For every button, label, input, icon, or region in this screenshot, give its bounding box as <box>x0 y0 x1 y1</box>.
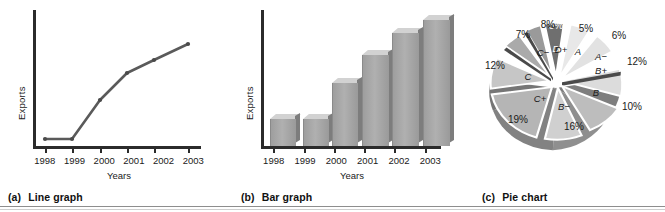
bar-graph-tick-label: 1999 <box>289 155 320 166</box>
bar-graph-tick <box>425 148 427 153</box>
line-graph-tick-label: 1999 <box>60 155 90 166</box>
pie-label-percent-b: 10% <box>622 102 642 112</box>
bar-front-face <box>270 119 296 146</box>
panel-c-caption-text: Pie chart <box>502 191 547 203</box>
panel-a-caption: (a) Line graph <box>8 191 83 203</box>
pie-label-grade-b-plus: B+ <box>595 66 607 76</box>
pie-label-grade-b-minus: B− <box>558 102 570 112</box>
line-graph-tick-label: 1998 <box>30 155 60 166</box>
bar-graph-bar <box>392 33 418 146</box>
bar-graph-tick-label: 2000 <box>321 155 352 166</box>
pie-label-grade-c-plus: C+ <box>534 94 546 104</box>
panel-c-caption: (c) Pie chart <box>482 191 547 203</box>
bar-graph-tick-label: 2001 <box>352 155 383 166</box>
panel-c-caption-id: (c) <box>482 191 495 203</box>
line-graph-tick <box>45 148 47 153</box>
pie-label-grade-a: A <box>575 47 581 57</box>
bar-graph-tick-label: 1998 <box>258 155 289 166</box>
bar-front-face <box>332 83 358 146</box>
bar-graph-x-axis <box>261 146 441 149</box>
pie-label-grade-b: B <box>593 88 599 98</box>
pie-label-percent-c-minus: 7% <box>516 30 530 40</box>
pie-label-percent-b-minus: 16% <box>564 122 584 132</box>
bar-graph-tick <box>394 148 396 153</box>
line-graph-tick-label: 2001 <box>119 155 149 166</box>
pie-label-percent-b-plus: 12% <box>627 57 647 67</box>
line-graph-tick <box>188 148 190 153</box>
bar-graph-tick-label: 2002 <box>383 155 414 166</box>
panel-b-caption-text: Bar graph <box>262 191 313 203</box>
panel-a-caption-text: Line graph <box>28 191 83 203</box>
figure-bottom-rule <box>0 206 665 208</box>
bar-graph-tick <box>304 148 306 153</box>
line-graph-x-tick-labels: 1998 1999 2000 2001 2002 2003 <box>30 155 208 166</box>
panel-b-caption-id: (b) <box>241 191 255 203</box>
bar-graph-tick <box>273 148 275 153</box>
pie-label-percent-a-minus: 6% <box>612 31 626 41</box>
bar-graph-tick-label: 2003 <box>415 155 446 166</box>
line-graph-tick <box>72 148 74 153</box>
line-graph-x-axis-label: Years <box>30 170 208 181</box>
bar-graph-plot-area <box>261 10 441 146</box>
pie-label-percent-a: 5% <box>579 24 593 34</box>
panel-a-caption-id: (a) <box>8 191 21 203</box>
line-graph-tick-label: 2002 <box>149 155 179 166</box>
pie-chart-plot-area: 5% D 5% A 6% A− 12% B+ 10% B 16% B− 19% … <box>446 4 665 159</box>
line-graph-tick-label: 2000 <box>89 155 119 166</box>
bar-graph-y-axis-label: Exports <box>244 86 255 120</box>
pie-label-grade-d-plus: D+ <box>555 45 567 55</box>
panel-b-caption: (b) Bar graph <box>241 191 312 203</box>
bar-graph-tick <box>334 148 336 153</box>
bar-graph-x-axis-label: Years <box>258 170 446 181</box>
pie-label-percent-d-plus: 8% <box>541 20 555 30</box>
bar-graph-bar <box>270 119 295 146</box>
panel-bar-graph: Exports <box>218 0 446 212</box>
bar-front-face <box>303 119 329 146</box>
pie-label-grade-c: C <box>525 72 532 82</box>
line-graph-tick <box>127 148 129 153</box>
bar-front-face <box>362 55 389 146</box>
bar-front-face <box>392 33 419 146</box>
pie-label-grade-a-minus: A− <box>595 52 607 62</box>
panel-pie-chart: 5% D 5% A 6% A− 12% B+ 10% B 16% B− 19% … <box>446 0 665 212</box>
figure-bottom-rule-secondary <box>0 209 665 210</box>
pie-label-grade-c-minus: C− <box>537 48 549 58</box>
figure-row: Exports 1998 1999 2000 2001 2002 2003 Ye… <box>0 0 665 212</box>
bar-graph-bar <box>332 83 357 146</box>
pie-label-percent-c: 12% <box>485 61 505 71</box>
bar-graph-x-tick-labels: 1998 1999 2000 2001 2002 2003 <box>258 155 446 166</box>
bar-graph-bar <box>303 119 328 146</box>
bar-graph-tick <box>364 148 366 153</box>
panel-line-graph: Exports 1998 1999 2000 2001 2002 2003 Ye… <box>0 0 218 212</box>
line-graph-tick <box>154 148 156 153</box>
line-graph-tick <box>100 148 102 153</box>
bar-graph-bar <box>362 55 388 146</box>
pie-label-percent-c-plus: 19% <box>508 115 528 125</box>
line-graph-tick-label: 2003 <box>178 155 208 166</box>
